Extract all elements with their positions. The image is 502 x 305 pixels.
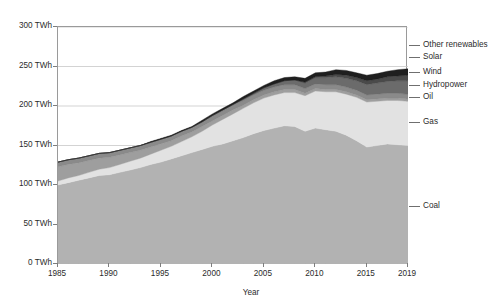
x-tick-mark: [366, 263, 367, 267]
legend-leader-line: [409, 97, 420, 98]
legend-label: Coal: [423, 202, 440, 210]
x-tick-mark: [160, 263, 161, 267]
y-tick-label: 200 TWh: [0, 101, 52, 109]
legend-label: Oil: [423, 93, 433, 101]
legend-leader-line: [409, 122, 420, 123]
legend-leader-line: [409, 72, 420, 73]
y-tick-label: 50 TWh: [0, 220, 52, 228]
x-tick-mark: [108, 263, 109, 267]
stacked-area-chart: [58, 27, 408, 264]
legend-label: Gas: [423, 118, 438, 126]
area-series-coal: [58, 126, 408, 264]
legend-leader-line: [409, 45, 420, 46]
x-tick-mark: [407, 263, 408, 267]
x-tick-mark: [314, 263, 315, 267]
x-tick-label: 1995: [151, 270, 169, 278]
x-tick-label: 1990: [99, 270, 117, 278]
y-tick-label: 250 TWh: [0, 62, 52, 70]
y-tick-label: 300 TWh: [0, 22, 52, 30]
chart-screenshot: 0 TWh50 TWh100 TWh150 TWh200 TWh250 TWh3…: [0, 0, 502, 305]
x-tick-label: 2000: [202, 270, 220, 278]
legend-item-gas: Gas: [409, 118, 438, 127]
x-tick-mark: [57, 263, 58, 267]
legend-item-hydropower: Hydropower: [409, 81, 467, 90]
legend-label: Other renewables: [423, 41, 488, 49]
legend-item-solar: Solar: [409, 53, 442, 62]
x-tick-label: 1985: [48, 270, 66, 278]
x-axis-title: Year: [0, 288, 502, 297]
legend-leader-line: [409, 85, 420, 86]
legend-label: Hydropower: [423, 81, 467, 89]
legend-label: Wind: [423, 68, 442, 76]
y-tick-label: 150 TWh: [0, 141, 52, 149]
x-tick-mark: [211, 263, 212, 267]
legend-leader-line: [409, 206, 420, 207]
x-tick-mark: [263, 263, 264, 267]
legend-leader-line: [409, 57, 420, 58]
legend-item-coal: Coal: [409, 202, 440, 211]
plot-area: [57, 26, 407, 263]
y-tick-label: 100 TWh: [0, 180, 52, 188]
legend-item-other-renewables: Other renewables: [409, 41, 488, 50]
x-tick-label: 2015: [357, 270, 375, 278]
x-tick-label: 2010: [305, 270, 323, 278]
x-tick-label: 2005: [254, 270, 272, 278]
legend-item-oil: Oil: [409, 93, 433, 102]
x-tick-label: 2019: [398, 270, 416, 278]
legend-item-wind: Wind: [409, 68, 442, 77]
legend-label: Solar: [423, 53, 442, 61]
y-tick-label: 0 TWh: [0, 259, 52, 267]
